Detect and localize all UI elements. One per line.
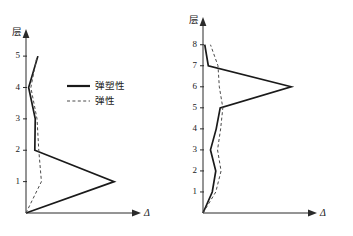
y-tick-label: 5: [193, 102, 198, 112]
axes-right: [200, 17, 317, 216]
x-axis-arrow-icon: [308, 210, 317, 217]
series-group-right: [203, 45, 291, 213]
y-tick-label: 2: [16, 144, 21, 154]
chart-panel-8-story: 12345678 层 Δ: [176, 0, 353, 236]
y-axis-title: 层: [189, 14, 199, 25]
y-tick-label: 4: [193, 123, 198, 133]
legend-label-elastoplastic: 弹塑性: [95, 80, 125, 91]
y-tick-label: 4: [16, 82, 21, 92]
y-tick-label: 8: [193, 39, 198, 49]
story-drift-figure: 12345 层 Δ 弹塑性 弹性 12345678 层 Δ: [0, 0, 353, 236]
y-tick-label: 7: [193, 60, 198, 70]
y-axis-arrow-icon: [23, 29, 30, 38]
chart-svg-right: 12345678 层 Δ: [176, 0, 353, 236]
y-ticks-left: 12345: [16, 50, 28, 186]
y-axis-title: 层: [12, 26, 22, 37]
chart-panel-5-story: 12345 层 Δ 弹塑性 弹性: [0, 0, 176, 236]
legend-label-elastic: 弹性: [95, 95, 115, 106]
y-tick-label: 3: [16, 113, 21, 123]
y-tick-label: 1: [193, 186, 198, 196]
y-tick-label: 2: [193, 165, 198, 175]
series-line-elastoplastic: [203, 45, 291, 213]
y-ticks-right: 12345678: [193, 39, 205, 196]
y-axis-arrow-icon: [200, 17, 207, 26]
x-axis-title: Δ: [143, 207, 150, 218]
y-tick-label: 6: [193, 81, 198, 91]
axes-left: [23, 29, 141, 216]
legend-left: 弹塑性 弹性: [67, 80, 125, 106]
y-tick-label: 3: [193, 144, 198, 154]
series-line-elastic: [26, 56, 41, 213]
chart-svg-left: 12345 层 Δ 弹塑性 弹性: [0, 0, 176, 236]
x-axis-title: Δ: [319, 207, 326, 218]
x-axis-arrow-icon: [132, 210, 141, 217]
y-tick-label: 1: [16, 176, 21, 186]
y-tick-label: 5: [16, 50, 21, 60]
